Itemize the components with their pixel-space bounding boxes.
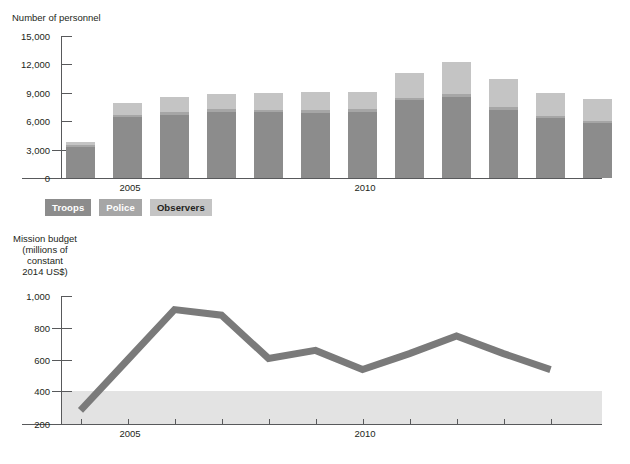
budget-line-path xyxy=(81,310,551,411)
budget-xlabel-2010: 2010 xyxy=(335,428,395,439)
budget-xlabel-2005: 2005 xyxy=(100,428,160,439)
budget-line xyxy=(0,280,630,430)
